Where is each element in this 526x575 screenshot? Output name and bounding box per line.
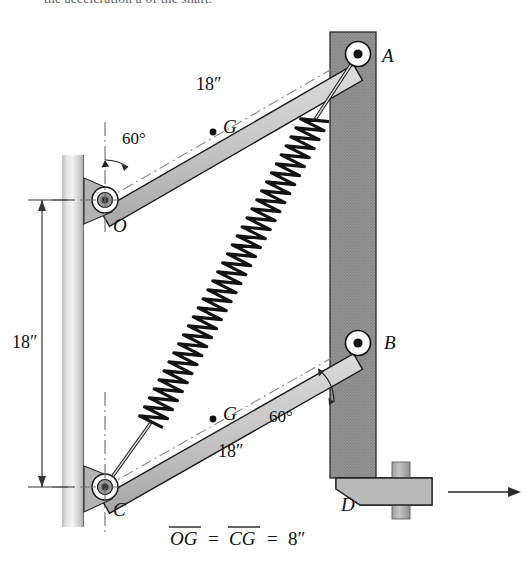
- caption-cg: CG: [229, 528, 256, 549]
- caption-og: OG: [170, 528, 198, 549]
- caption-equals-1: =: [208, 528, 219, 549]
- label-pivot-b: B: [384, 332, 396, 353]
- label-angle-top: 60°: [122, 129, 146, 148]
- cg-marker-top: [210, 129, 217, 136]
- label-bar-bottom-length: 18″: [218, 441, 244, 461]
- pivot-b: [346, 331, 371, 356]
- label-pivot-c: C: [113, 499, 126, 520]
- spring-coils: [140, 119, 329, 428]
- caption-value: 8″: [288, 528, 305, 549]
- label-pivot-a: A: [380, 45, 394, 66]
- mechanism-diagram: A B O C D G G 18″ 18″ 18″ 60° 60° OG = C…: [0, 0, 526, 575]
- cg-marker-bottom: [210, 416, 217, 423]
- caption-equation: OG = CG = 8″: [169, 527, 305, 549]
- pivot-a: [346, 42, 371, 67]
- force-arrow: [448, 487, 521, 497]
- label-pivot-o: O: [113, 215, 127, 236]
- label-bar-top-length: 18″: [196, 74, 222, 94]
- label-cg-bottom: G: [223, 403, 237, 424]
- label-wall-separation: 18″: [12, 332, 38, 352]
- caption-equals-2: =: [267, 528, 278, 549]
- right-wall-shaft: [330, 32, 376, 478]
- left-wall: [62, 155, 84, 527]
- label-point-d: D: [340, 494, 355, 515]
- angle-arc-top: [102, 160, 129, 171]
- bar-cb: [84, 343, 363, 513]
- label-cg-top: G: [223, 116, 237, 137]
- label-angle-bottom: 60°: [269, 407, 293, 426]
